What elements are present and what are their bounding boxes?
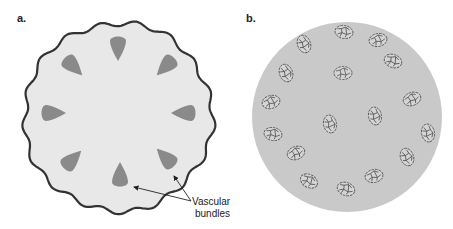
stem-cross-section-figure: a. b. Vascular bundles (0, 0, 453, 229)
vascular-bundle (334, 67, 352, 80)
panel-b-monocot-stem (252, 22, 442, 212)
vascular-bundles-label: Vascular bundles (192, 196, 230, 220)
panel-a-dicot-stem (22, 22, 215, 215)
panel-a-label: a. (17, 12, 26, 24)
annotation-line-1: Vascular (192, 196, 230, 208)
diagram-canvas (0, 0, 453, 229)
annotation-line-2: bundles (192, 208, 230, 220)
panel-b-label: b. (246, 12, 256, 24)
